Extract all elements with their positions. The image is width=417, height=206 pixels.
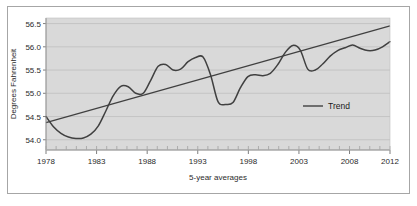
y-tick-label-5: 56.5 [25,20,41,29]
y-tick-label-2: 55.0 [25,89,41,98]
y-axis-title: Degrees Fahrenheit [9,48,18,119]
y-tick-label-0: 54.0 [25,136,41,145]
x-tick-label-1: 1983 [88,157,106,166]
x-axis-title: 5-year averages [189,173,247,182]
x-tick-label-6: 2008 [341,157,359,166]
x-tick-label-7: 2012 [381,157,399,166]
x-tick-label-2: 1988 [138,157,156,166]
legend-label-trend: Trend [328,101,350,111]
x-tick-label-4: 1998 [239,157,257,166]
x-tick-label-3: 1993 [189,157,207,166]
x-tick-label-5: 2003 [290,157,308,166]
y-tick-label-4: 56.0 [25,43,41,52]
y-tick-label-3: 55.5 [25,66,41,75]
x-tick-label-0: 1978 [37,157,55,166]
y-tick-label-1: 54.5 [25,113,41,122]
temperature-trend-chart: 54.054.555.055.556.056.51978198319881993… [0,0,417,206]
chart-figure: 54.054.555.055.556.056.51978198319881993… [0,0,417,206]
plot-area-background [46,18,390,150]
